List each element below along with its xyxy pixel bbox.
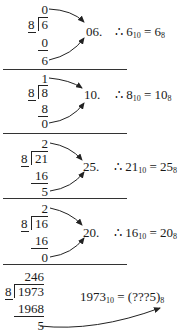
dividend: 1973	[14, 285, 44, 298]
result: 06.	[86, 25, 102, 38]
quotient: 246	[14, 270, 44, 283]
product: 16	[28, 234, 48, 247]
product: 8	[30, 102, 48, 115]
divisor-underline	[28, 100, 36, 101]
quotient: 2	[28, 202, 48, 215]
remainder: 6	[30, 54, 48, 67]
conclusion: ∴ 1610 = 208	[114, 226, 177, 239]
dividend: 8	[30, 86, 48, 99]
dividend: 16	[28, 217, 48, 230]
result: 10.	[84, 88, 100, 101]
product: 16	[28, 169, 48, 182]
conclusion: ∴ 610 = 68	[115, 25, 165, 38]
divisor-underline	[5, 299, 13, 300]
dividend: 21	[28, 152, 48, 165]
product: 1968	[14, 302, 44, 315]
remainder: 0	[30, 117, 48, 130]
divisor: 8	[5, 285, 12, 298]
remainder: 5	[28, 185, 48, 198]
divisor-underline	[21, 166, 29, 167]
subtraction-bar	[38, 50, 48, 51]
divisor-underline	[21, 231, 29, 232]
remainder: 5	[14, 319, 44, 332]
conclusion: ∴ 810 = 108	[115, 88, 172, 101]
quotient: 0	[30, 3, 48, 16]
quotient: 1	[30, 72, 48, 85]
product: 0	[30, 36, 48, 49]
subtraction-bar	[31, 248, 48, 249]
dividend: 6	[30, 18, 48, 31]
conclusion: 197310 = (???5)8	[80, 290, 164, 303]
divisor: 8	[21, 217, 28, 230]
conclusion: ∴ 2110 = 258	[114, 160, 177, 173]
result: 20.	[83, 226, 99, 239]
quotient: 2	[28, 137, 48, 150]
divisor-underline	[28, 32, 36, 33]
subtraction-bar	[14, 316, 44, 317]
result: 25.	[83, 160, 99, 173]
remainder: 0	[28, 251, 48, 264]
divisor: 8	[21, 152, 28, 165]
